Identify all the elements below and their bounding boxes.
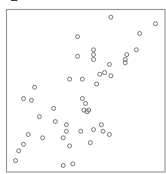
data-point-39 [41, 136, 45, 140]
data-point-10 [134, 48, 138, 52]
data-point-5 [76, 54, 80, 58]
data-point-1 [109, 15, 113, 19]
data-point-45 [14, 159, 18, 163]
data-point-4 [138, 32, 142, 36]
points-layer [14, 15, 158, 167]
data-point-29 [37, 115, 41, 119]
data-point-6 [92, 48, 96, 52]
data-point-35 [92, 128, 96, 132]
data-point-44 [17, 149, 21, 153]
data-point-13 [107, 62, 111, 66]
data-point-7 [92, 53, 96, 57]
data-point-42 [22, 142, 26, 146]
data-point-8 [92, 58, 96, 62]
data-point-32 [99, 123, 103, 127]
data-point-40 [61, 136, 65, 140]
data-point-3 [76, 35, 80, 39]
data-point-9 [125, 53, 129, 57]
data-point-16 [109, 74, 113, 78]
data-point-47 [71, 162, 75, 166]
data-point-30 [53, 120, 57, 124]
data-point-24 [84, 102, 88, 106]
data-point-15 [98, 72, 102, 76]
data-point-14 [103, 71, 107, 75]
data-point-46 [61, 164, 65, 168]
data-point-22 [29, 98, 33, 102]
data-point-18 [80, 77, 84, 81]
data-point-31 [64, 123, 68, 127]
data-point-36 [101, 129, 105, 133]
data-point-25 [52, 106, 56, 110]
data-point-19 [95, 82, 99, 86]
data-point-21 [22, 97, 26, 101]
data-point-20 [33, 85, 37, 89]
data-point-2 [154, 22, 158, 26]
data-point-23 [80, 97, 84, 101]
data-point-33 [64, 129, 68, 133]
data-point-43 [68, 144, 72, 148]
data-point-37 [107, 133, 111, 137]
data-point-34 [79, 129, 83, 133]
data-point-17 [68, 77, 72, 81]
data-point-41 [88, 141, 92, 145]
scatter-plot [0, 0, 166, 174]
data-point-38 [26, 133, 30, 137]
